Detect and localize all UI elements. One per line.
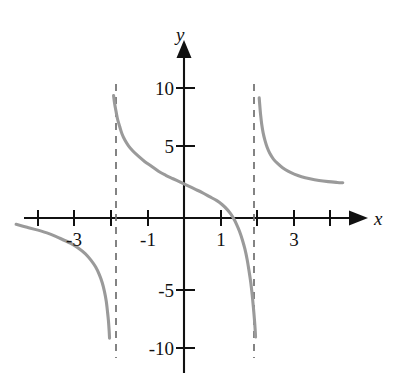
- y-tick-label-5: 5: [165, 137, 175, 156]
- x-tick-label-3: 3: [289, 230, 299, 249]
- axes-group: [24, 40, 368, 373]
- curve-left-branch: [16, 224, 109, 338]
- y-tick-label--10: -10: [149, 339, 174, 358]
- curve-right-branch: [259, 98, 343, 183]
- x-axis-label: x: [374, 209, 382, 228]
- x-tick-label-1: 1: [216, 230, 226, 249]
- graph-figure: y x -3 -1 1 3 10 5 -5 -10: [0, 0, 397, 389]
- x-tick-label--1: -1: [140, 230, 156, 249]
- y-axis-label: y: [176, 25, 184, 44]
- x-tick-label--3: -3: [66, 230, 82, 249]
- y-tick-label-10: 10: [155, 79, 174, 98]
- rational-function-plot: [0, 0, 397, 389]
- x-axis-arrowhead: [349, 211, 368, 226]
- y-tick-label--5: -5: [158, 281, 174, 300]
